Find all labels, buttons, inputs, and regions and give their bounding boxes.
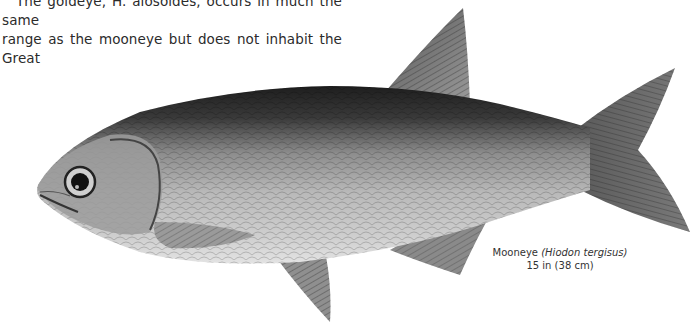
caption-common-name: Mooneye bbox=[493, 247, 538, 258]
caption-scientific-name: (Hiodon tergisus) bbox=[541, 247, 627, 258]
caption-species: Mooneye (Hiodon tergisus) bbox=[490, 246, 630, 259]
paren-close: ) bbox=[624, 247, 628, 258]
figure-caption: Mooneye (Hiodon tergisus) 15 in (38 cm) bbox=[490, 246, 630, 272]
caption-size: 15 in (38 cm) bbox=[490, 259, 630, 272]
scientific-name: Hiodon tergisus bbox=[545, 247, 623, 258]
fish-illustration bbox=[0, 0, 700, 327]
fish-head bbox=[38, 134, 162, 234]
eye bbox=[65, 167, 95, 197]
tail-fin bbox=[575, 68, 690, 232]
